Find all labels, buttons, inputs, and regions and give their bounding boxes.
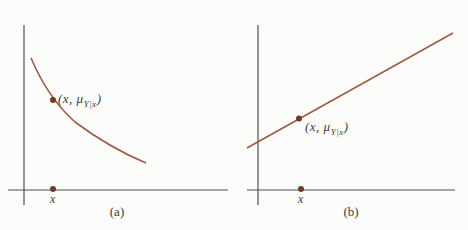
point-label-open: (x,: [305, 119, 324, 134]
mu-subscript: Y|x: [331, 127, 344, 137]
panel-b: (x, μY|x) x (b): [234, 0, 468, 230]
panel-a-caption: (a): [0, 204, 234, 220]
panel-a: (x, μY|x) x (a): [0, 0, 234, 230]
regression-curve: [31, 58, 146, 163]
point-label-open: (x,: [58, 91, 77, 106]
curve-point-dot: [50, 97, 56, 103]
mu-symbol: μ: [324, 119, 331, 134]
mu-symbol: μ: [77, 91, 84, 106]
regression-figure: (x, μY|x) x (a) (x, μY|x) x (b): [0, 0, 468, 230]
point-label: (x, μY|x): [305, 119, 348, 137]
panel-b-plot: [234, 0, 468, 230]
mu-subscript: Y|x: [84, 99, 97, 109]
point-label-close: ): [344, 119, 349, 134]
point-label: (x, μY|x): [58, 91, 101, 109]
curve-point-dot: [296, 116, 302, 122]
panel-b-caption: (b): [234, 204, 468, 220]
point-label-close: ): [97, 91, 102, 106]
panel-a-plot: [0, 0, 234, 230]
regression-line: [247, 33, 453, 148]
